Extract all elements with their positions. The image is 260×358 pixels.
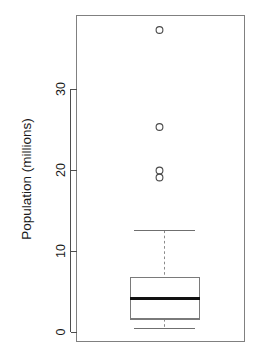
y-axis-ticks <box>71 90 77 333</box>
outlier-point <box>156 167 163 174</box>
tick-label-20: 20 <box>54 163 68 177</box>
outlier-point <box>156 174 163 181</box>
outlier-point <box>156 27 163 34</box>
tick-label-0: 0 <box>54 328 68 335</box>
outlier-point <box>156 124 163 131</box>
outlier-points <box>156 27 163 181</box>
tick-label-10: 10 <box>54 244 68 258</box>
y-axis-tick-labels: 30 20 10 0 <box>54 82 68 335</box>
tick-label-30: 30 <box>54 82 68 96</box>
boxplot-canvas: 30 20 10 0 Population (millions) <box>0 0 260 358</box>
boxplot-figure: 30 20 10 0 Population (millions) <box>0 0 260 358</box>
y-axis-title: Population (millions) <box>19 118 34 240</box>
